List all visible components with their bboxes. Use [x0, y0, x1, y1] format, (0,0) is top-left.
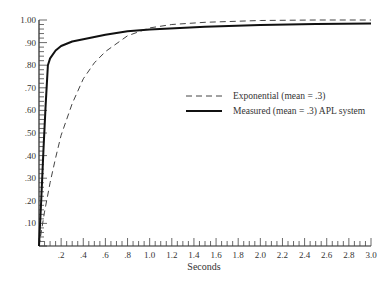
x-tick-label: 2.0: [255, 250, 267, 260]
y-axis: .10.20.30.40.50.60.70.80.901.00: [20, 15, 47, 246]
x-tick-label: 1.8: [233, 250, 245, 260]
x-tick-label: 1.4: [188, 250, 200, 260]
x-tick-label: 1.0: [144, 250, 156, 260]
y-tick-label: 1.00: [20, 15, 36, 25]
x-tick-label: 2.2: [277, 250, 288, 260]
y-tick-label: .70: [25, 83, 37, 93]
y-tick-label: .50: [25, 128, 37, 138]
exponential-curve: [39, 20, 371, 246]
legend: Exponential (mean = .3) Measured (mean =…: [186, 91, 366, 117]
x-tick-label: .8: [124, 250, 131, 260]
cdf-chart: .10.20.30.40.50.60.70.80.901.00 .2.4.6.8…: [0, 0, 390, 293]
x-tick-label: 2.4: [299, 250, 311, 260]
y-tick-label: .10: [25, 218, 37, 228]
y-tick-label: .20: [25, 196, 37, 206]
y-tick-label: .60: [25, 105, 37, 115]
x-tick-label: 1.6: [210, 250, 222, 260]
y-tick-label: .30: [25, 173, 37, 183]
series-layer: [39, 20, 371, 246]
y-tick-label: .90: [25, 38, 37, 48]
x-tick-label: 2.8: [343, 250, 355, 260]
x-axis: .2.4.6.81.01.21.41.61.82.02.22.42.62.83.…: [39, 238, 377, 260]
x-axis-title: Seconds: [187, 261, 220, 272]
x-tick-label: .6: [102, 250, 109, 260]
x-tick-label: 3.0: [365, 250, 377, 260]
y-tick-label: .40: [25, 151, 37, 161]
x-tick-label: 2.6: [321, 250, 333, 260]
measured-curve: [39, 23, 371, 246]
legend-label-exponential: Exponential (mean = .3): [233, 91, 325, 102]
y-tick-label: .80: [25, 60, 37, 70]
legend-label-measured: Measured (mean = .3) APL system: [233, 106, 366, 117]
x-tick-label: 1.2: [166, 250, 177, 260]
x-tick-label: .4: [80, 250, 87, 260]
x-tick-label: .2: [58, 250, 65, 260]
